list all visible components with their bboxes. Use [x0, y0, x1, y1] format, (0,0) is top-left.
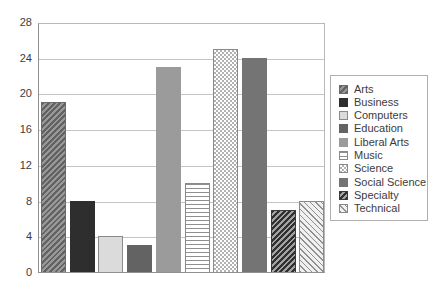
legend-label: Technical — [354, 203, 400, 214]
science-swatch-icon — [339, 164, 348, 173]
legend-label: Social Science — [354, 177, 426, 188]
legend-label: Education — [354, 123, 403, 134]
bar-education — [127, 245, 152, 272]
bar-business — [70, 201, 95, 272]
bar-technical — [299, 201, 324, 272]
social-science-swatch-icon — [339, 178, 348, 187]
plot-area — [38, 23, 325, 273]
education-swatch-icon — [339, 124, 348, 133]
legend-label: Specialty — [354, 190, 399, 201]
legend-item-computers: Computers — [339, 110, 421, 122]
legend-item-social-science: Social Science — [339, 176, 421, 188]
y-tick-label-0: 0 — [0, 266, 32, 279]
legend-label: Music — [354, 150, 383, 161]
legend-item-education: Education — [339, 123, 421, 135]
legend: ArtsBusinessComputersEducationLiberal Ar… — [330, 75, 428, 221]
gridline-20 — [39, 94, 324, 95]
bar-liberal-arts — [156, 67, 181, 272]
legend-label: Science — [354, 163, 393, 174]
computers-swatch-icon — [339, 111, 348, 120]
gridline-16 — [39, 130, 324, 131]
bar-social-science — [242, 58, 267, 272]
legend-item-business: Business — [339, 96, 421, 108]
y-tick-label-20: 20 — [0, 87, 32, 100]
bar-music — [185, 183, 210, 272]
business-swatch-icon — [339, 98, 348, 107]
gridline-24 — [39, 59, 324, 60]
music-swatch-icon — [339, 151, 348, 160]
arts-swatch-icon — [339, 85, 348, 94]
y-tick-label-16: 16 — [0, 123, 32, 136]
legend-item-technical: Technical — [339, 203, 421, 215]
y-tick-label-12: 12 — [0, 159, 32, 172]
bar-computers — [98, 236, 123, 272]
bar-chart: 0481216202428 ArtsBusinessComputersEduca… — [0, 0, 448, 292]
legend-label: Computers — [354, 110, 408, 121]
liberal-arts-swatch-icon — [339, 138, 348, 147]
legend-label: Business — [354, 97, 399, 108]
y-tick-label-4: 4 — [0, 230, 32, 243]
y-tick-label-8: 8 — [0, 195, 32, 208]
y-tick-label-28: 28 — [0, 16, 32, 29]
technical-swatch-icon — [339, 204, 348, 213]
legend-item-liberal-arts: Liberal Arts — [339, 136, 421, 148]
bar-arts — [41, 102, 66, 272]
legend-item-music: Music — [339, 150, 421, 162]
gridline-12 — [39, 166, 324, 167]
specialty-swatch-icon — [339, 191, 348, 200]
legend-item-specialty: Specialty — [339, 190, 421, 202]
legend-item-science: Science — [339, 163, 421, 175]
legend-label: Liberal Arts — [354, 137, 409, 148]
legend-item-arts: Arts — [339, 83, 421, 95]
bar-science — [213, 49, 238, 272]
y-tick-label-24: 24 — [0, 52, 32, 65]
bar-specialty — [271, 210, 296, 273]
legend-label: Arts — [354, 84, 374, 95]
